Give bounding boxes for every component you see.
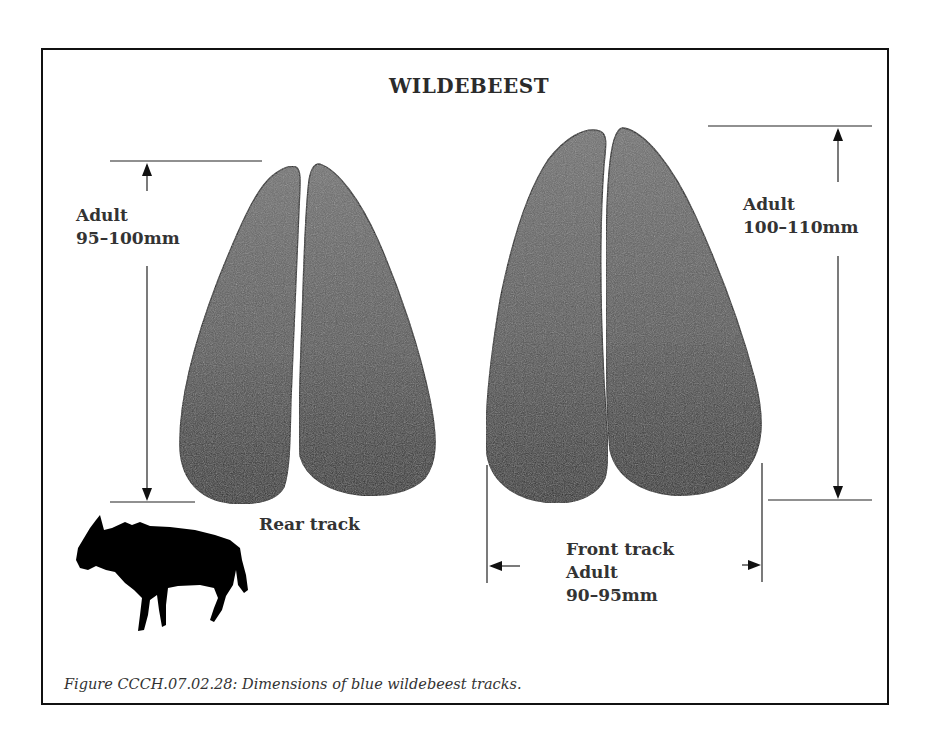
- track-diagram: [0, 0, 938, 754]
- arrow-left-icon: [489, 561, 502, 571]
- rear-track-left-toe: [180, 166, 300, 503]
- arrow-right-icon: [748, 560, 761, 570]
- front-length-value: 100–110mm: [743, 216, 858, 239]
- front-track-right-toe: [606, 128, 761, 496]
- rear-track-label: Rear track: [259, 513, 360, 536]
- arrow-up-icon: [142, 163, 152, 176]
- front-width-value: 90–95mm: [566, 584, 674, 607]
- front-width-label: Adult: [566, 561, 674, 584]
- wildebeest-silhouette-icon: [76, 515, 248, 631]
- rear-length-value: 95–100mm: [76, 227, 180, 250]
- figure-title: WILDEBEEST: [0, 74, 938, 98]
- front-track-left-toe: [486, 130, 607, 503]
- arrow-down-icon: [142, 488, 152, 501]
- front-length-group: Adult 100–110mm: [743, 193, 858, 239]
- rear-track-right-toe: [299, 164, 435, 496]
- arrow-up-icon: [833, 128, 843, 141]
- figure-caption: Figure CCCH.07.02.28: Dimensions of blue…: [64, 676, 522, 692]
- front-length-label: Adult: [743, 193, 858, 216]
- rear-length-label: Adult: [76, 204, 180, 227]
- front-width-group: Front track Adult 90–95mm: [566, 538, 674, 607]
- rear-length-group: Adult 95–100mm: [76, 204, 180, 250]
- arrow-down-icon: [833, 486, 843, 499]
- front-track-label: Front track: [566, 538, 674, 561]
